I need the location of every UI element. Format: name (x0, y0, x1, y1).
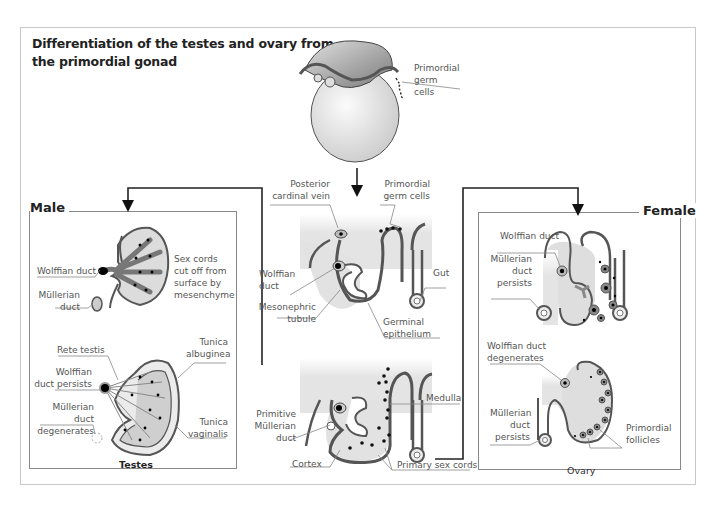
caption-testes: Testes (119, 459, 153, 470)
label-mullerian-duct-degenerates: Müllerian duct degenerates (31, 401, 94, 437)
label-wolffian-duct-persists: Wolffian duct persists (34, 366, 92, 390)
label-wolffian-duct-degenerates: Wolffian duct degenerates (487, 340, 557, 364)
label-posterior-cardinal-vein: Posterior cardinal vein (268, 178, 330, 202)
label-tunica-albuginea: Tunica albuginea (186, 336, 228, 360)
label-primordial-germ-cells-mid: Primordial germ cells (380, 178, 430, 202)
label-gut: Gut (433, 267, 449, 279)
diagram-artwork (0, 0, 712, 507)
label-primary-sex-cords: Primary sex cords (397, 459, 477, 471)
label-mesonephric-tubule: Mesonephric tubule (258, 301, 316, 325)
label-wolffian-duct-male: Wolffian duct (37, 265, 96, 277)
label-rete-testis: Rete testis (57, 344, 105, 356)
label-primitive-mullerian-duct: Primitive Müllerian duct (250, 408, 296, 444)
label-medulla: Medulla (426, 392, 461, 404)
differentiating-gonad-section (290, 358, 470, 470)
label-wolffian-duct-female: Wolffian duct (500, 230, 559, 242)
label-cortex: Cortex (292, 458, 322, 470)
label-primordial-follicles: Primordial follicles (626, 422, 672, 446)
caption-ovary: Ovary (567, 465, 595, 476)
label-primordial-germ-cells-top: Primordial germ cells (414, 62, 460, 98)
label-tunica-vaginalis: Tunica vaginalis (188, 416, 228, 440)
label-mullerian-duct-persists-top: Müllerian duct persists (490, 253, 532, 289)
label-sex-cords: Sex cords cut off from surface by mesenc… (174, 253, 232, 301)
label-wolffian-duct-mid: Wolffian duct (259, 268, 293, 292)
primordial-gonad-illustration (300, 41, 460, 162)
label-mullerian-duct-persists-bottom: Müllerian duct persists (490, 407, 530, 443)
label-germinal-epithelium: Germinal epithelium (383, 316, 433, 340)
label-mullerian-duct-male: Müllerian duct (36, 289, 80, 313)
